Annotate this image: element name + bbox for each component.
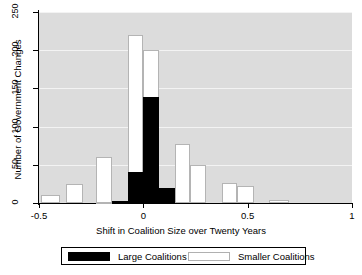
legend-label: Smaller Coalitions — [238, 251, 315, 262]
bar — [96, 157, 112, 203]
bar — [112, 201, 128, 203]
x-tick-0 — [143, 203, 144, 208]
bar — [128, 172, 144, 203]
y-tick-label-250: 250 — [10, 0, 20, 28]
gridline-y-150 — [39, 88, 352, 89]
gridline-y-250 — [39, 12, 352, 13]
legend-swatch-black — [68, 252, 110, 261]
y-tick-150 — [33, 88, 38, 89]
bar — [269, 200, 290, 203]
gridline-y-100 — [39, 127, 352, 128]
bar — [143, 97, 159, 203]
x-axis-title: Shift in Coalition Size over Twenty Year… — [0, 225, 362, 236]
x-tick-1 — [352, 203, 353, 208]
y-tick-0 — [33, 203, 38, 204]
histogram-figure: Number of Government Changes 05010015020… — [0, 0, 362, 275]
legend-label: Large Coalitions — [118, 251, 187, 262]
bar — [41, 195, 60, 203]
x-axis-line — [36, 203, 352, 204]
x-tick-label-0: -0.5 — [19, 210, 59, 221]
legend-entry-0: Large Coalitions — [68, 251, 187, 262]
y-tick-200 — [33, 50, 38, 51]
bar — [190, 165, 206, 203]
y-tick-label-50: 50 — [10, 147, 20, 181]
gridline-y-200 — [39, 50, 352, 51]
legend-swatch-white — [188, 252, 230, 261]
y-tick-label-100: 100 — [10, 109, 20, 143]
x-tick-0.5 — [248, 203, 249, 208]
bar — [222, 183, 238, 203]
x-tick-label-3: 1 — [332, 210, 362, 221]
x-tick--0.5 — [39, 203, 40, 208]
y-axis-line — [38, 10, 39, 205]
legend-entry-1: Smaller Coalitions — [188, 251, 315, 262]
bar — [175, 144, 191, 203]
chart-legend: Large CoalitionsSmaller Coalitions — [61, 247, 306, 265]
y-tick-label-200: 200 — [10, 32, 20, 66]
y-tick-250 — [33, 12, 38, 13]
y-tick-100 — [33, 127, 38, 128]
y-tick-label-150: 150 — [10, 70, 20, 104]
y-tick-50 — [33, 165, 38, 166]
x-tick-label-1: 0 — [123, 210, 163, 221]
bar — [66, 184, 83, 203]
bar — [159, 188, 175, 203]
bar — [237, 186, 254, 203]
x-tick-label-2: 0.5 — [228, 210, 268, 221]
